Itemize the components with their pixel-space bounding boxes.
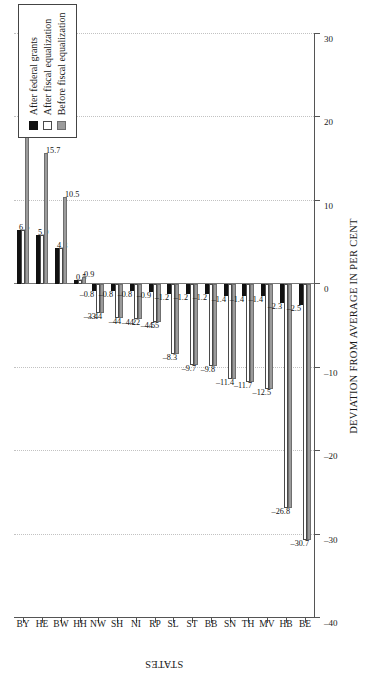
legend-item[interactable]: After fiscal equalization xyxy=(42,13,53,131)
bar-value-label: –1.2 xyxy=(174,293,188,302)
legend-swatch-icon xyxy=(43,121,52,130)
category-label-rp: RP xyxy=(149,619,161,629)
bar-value-label: –9.8 xyxy=(201,365,215,374)
bar-value-label: –1.4 xyxy=(211,294,225,303)
bar xyxy=(307,284,311,540)
bar-value-label: –4.2 xyxy=(126,318,140,327)
value-axis-line xyxy=(314,34,315,618)
bar-value-label: –1.4 xyxy=(249,294,263,303)
category-label-ni: NI xyxy=(131,619,141,629)
category-label-st: ST xyxy=(187,619,198,629)
bar-value-label: –0.8 xyxy=(99,289,113,298)
category-label-be: BE xyxy=(299,619,311,629)
legend-swatch-icon xyxy=(29,121,38,130)
legend-item[interactable]: After federal grants xyxy=(28,13,39,131)
bar xyxy=(157,284,161,322)
bar-value-label: –9.7 xyxy=(182,364,196,373)
gridline xyxy=(14,450,314,451)
bar xyxy=(44,153,48,284)
value-axis-tick-label: 10 xyxy=(324,201,333,211)
chart-legend: After federal grantsAfter fiscal equaliz… xyxy=(18,4,77,139)
category-axis-title: STATES xyxy=(145,659,183,670)
category-label-sl: SL xyxy=(168,619,179,629)
bar-value-label: –26.8 xyxy=(271,506,289,515)
bar-value-label: –30.7 xyxy=(290,539,308,548)
bar-value-label: 0.9 xyxy=(84,269,94,278)
bar xyxy=(25,137,29,284)
category-label-hb: HB xyxy=(279,619,292,629)
bar-value-label: –3.4 xyxy=(88,311,102,320)
bar-value-label: –0.8 xyxy=(80,289,94,298)
category-label-nw: NW xyxy=(90,619,106,629)
category-label-mv: MV xyxy=(259,619,274,629)
legend-item-label: After fiscal equalization xyxy=(42,19,53,116)
bar-value-label: –4.5 xyxy=(144,320,158,329)
bar-value-label: –11.4 xyxy=(216,378,234,387)
category-axis-line xyxy=(14,617,315,618)
legend-item-label: After federal grants xyxy=(28,37,39,115)
bar xyxy=(288,284,292,508)
category-label-bw: BW xyxy=(53,619,68,629)
value-axis-tick-label: –10 xyxy=(324,368,338,378)
category-label-sn: SN xyxy=(224,619,236,629)
value-axis-tick-label: 20 xyxy=(324,117,333,127)
value-axis-tick-label: –20 xyxy=(324,451,338,461)
bar-chart-figure: 3020100–10–20–30–40BY6.517.6HE5.915.7BW4… xyxy=(0,0,374,676)
category-label-th: TH xyxy=(242,619,255,629)
category-label-he: HE xyxy=(36,619,49,629)
bar xyxy=(269,284,273,388)
category-label-hh: HH xyxy=(73,619,87,629)
value-axis-title: DEVIATION FROM AVERAGE IN PER CENT xyxy=(348,218,359,434)
value-axis-tick-label: –40 xyxy=(324,618,338,628)
bar-value-label: –12.5 xyxy=(253,387,271,396)
chart-rotated-wrapper: 3020100–10–20–30–40BY6.517.6HE5.915.7BW4… xyxy=(0,0,374,676)
bar xyxy=(63,197,67,285)
bar-value-label: –2.5 xyxy=(286,304,300,313)
bar-value-label: –2.3 xyxy=(268,302,282,311)
bar-value-label: 15.7 xyxy=(46,146,60,155)
bar-value-label: –1.2 xyxy=(155,293,169,302)
bar-value-label: –1.4 xyxy=(230,294,244,303)
gridline xyxy=(14,534,314,535)
bar-value-label: –8.3 xyxy=(163,352,177,361)
legend-swatch-icon xyxy=(57,121,66,130)
bar-value-label: –1.2 xyxy=(193,293,207,302)
bar-value-label: –11.7 xyxy=(234,380,252,389)
bar-value-label: –0.9 xyxy=(136,290,150,299)
value-axis-tick-label: 30 xyxy=(324,34,333,44)
category-label-sh: SH xyxy=(111,619,123,629)
value-axis-tick-label: 0 xyxy=(324,284,329,294)
bar-value-label: –4 xyxy=(113,316,121,325)
legend-item[interactable]: Before fiscal equalization xyxy=(56,13,67,131)
value-axis-tick-label: –30 xyxy=(324,535,338,545)
category-label-bb: BB xyxy=(205,619,218,629)
bar-value-label: –0.8 xyxy=(118,289,132,298)
bar-value-label: 10.5 xyxy=(65,189,79,198)
gridline xyxy=(14,200,314,201)
category-label-by: BY xyxy=(17,619,30,629)
legend-item-label: Before fiscal equalization xyxy=(56,13,67,116)
